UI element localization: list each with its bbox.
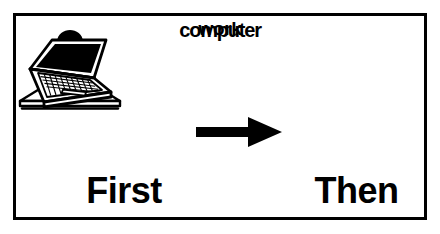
then-caption: Then [303, 173, 410, 209]
then-picture-label: computer [16, 20, 424, 40]
card-outer-frame: work First [13, 13, 427, 220]
first-then-card: work First [0, 0, 440, 234]
then-picture-box[interactable]: computer [16, 102, 123, 204]
